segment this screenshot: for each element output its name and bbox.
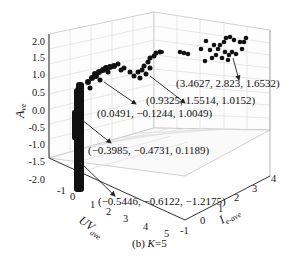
svg-text:0: 0 xyxy=(70,191,75,202)
svg-text:1.0: 1.0 xyxy=(32,69,45,80)
svg-text:-0.5: -0.5 xyxy=(28,122,45,133)
annotation-cluster-3: (0.0491, −0.1244, 1.0049) xyxy=(97,107,213,120)
svg-text:1.5: 1.5 xyxy=(32,52,45,63)
svg-text:2: 2 xyxy=(234,192,239,203)
svg-text:2: 2 xyxy=(106,206,111,217)
svg-text:0.0: 0.0 xyxy=(32,105,45,116)
z-axis-ticks: 2.0 1.5 1.0 0.5 0.0 -0.5 -1.0 -1.5 -2.0 xyxy=(28,36,45,185)
scatter-3d-chart: 2.0 1.5 1.0 0.5 0.0 -0.5 -1.0 -1.5 -2.0 … xyxy=(0,0,292,269)
z-axis-label: Ave xyxy=(13,103,28,119)
figure-caption: (b) K=5 xyxy=(132,237,167,250)
x-axis-label: UVave xyxy=(75,213,107,242)
annotation-cluster-1: (−0.5446, −0.6122, −1.2175) xyxy=(98,195,226,208)
svg-text:-1: -1 xyxy=(57,185,66,196)
svg-text:3: 3 xyxy=(123,213,128,224)
svg-text:-1: -1 xyxy=(180,225,189,236)
svg-text:2.0: 2.0 xyxy=(32,36,45,47)
x-axis-ticks: -1 0 1 2 3 4 5 xyxy=(57,185,169,239)
svg-text:-1.0: -1.0 xyxy=(28,139,45,150)
annotation-cluster-5: (3.4627, 2.823, 1.6532) xyxy=(176,77,280,90)
svg-text:-1.5: -1.5 xyxy=(28,156,45,167)
annotation-cluster-2: (−0.3985, −0.4731, 0.1189) xyxy=(88,144,209,157)
svg-text:-2.0: -2.0 xyxy=(28,174,45,185)
svg-text:4: 4 xyxy=(271,173,277,184)
svg-text:(b) K=5: (b) K=5 xyxy=(132,237,167,250)
svg-text:4: 4 xyxy=(143,221,149,232)
svg-text:0: 0 xyxy=(200,215,205,226)
svg-text:1: 1 xyxy=(90,199,95,210)
svg-text:0.5: 0.5 xyxy=(32,87,45,98)
annotation-cluster-4: (0.9325, 1.5514, 1.0152) xyxy=(146,94,255,107)
svg-text:UVave: UVave xyxy=(75,213,107,242)
svg-text:Ave: Ave xyxy=(13,103,28,119)
svg-text:3: 3 xyxy=(252,183,257,194)
